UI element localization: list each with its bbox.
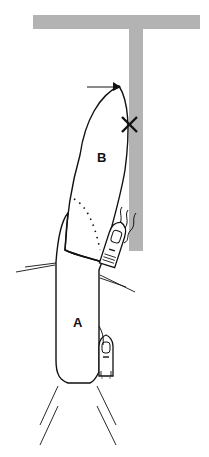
boat-lower (99, 335, 113, 378)
wake-lines (40, 386, 116, 445)
area-a-label: A (73, 315, 82, 330)
dock-vertical-bar (129, 29, 143, 251)
dock-top-bar (33, 15, 200, 29)
turning-path-dotted (74, 199, 100, 250)
area-b-label: B (97, 150, 106, 165)
water-line-left (16, 263, 56, 272)
direction-arrow-icon (87, 82, 121, 91)
diagram-canvas (0, 0, 209, 457)
dock-wall (33, 15, 200, 251)
water-line-right (100, 275, 135, 292)
swept-area-a (56, 213, 102, 383)
boat-upper (99, 220, 128, 268)
